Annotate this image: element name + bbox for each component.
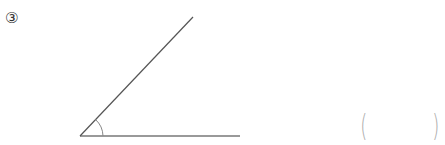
diagonal-ray	[80, 17, 193, 136]
answer-blank[interactable]	[375, 112, 430, 138]
answer-open-paren: (	[360, 108, 367, 143]
angle-arc-marker	[96, 120, 104, 137]
answer-close-paren: )	[432, 108, 439, 143]
